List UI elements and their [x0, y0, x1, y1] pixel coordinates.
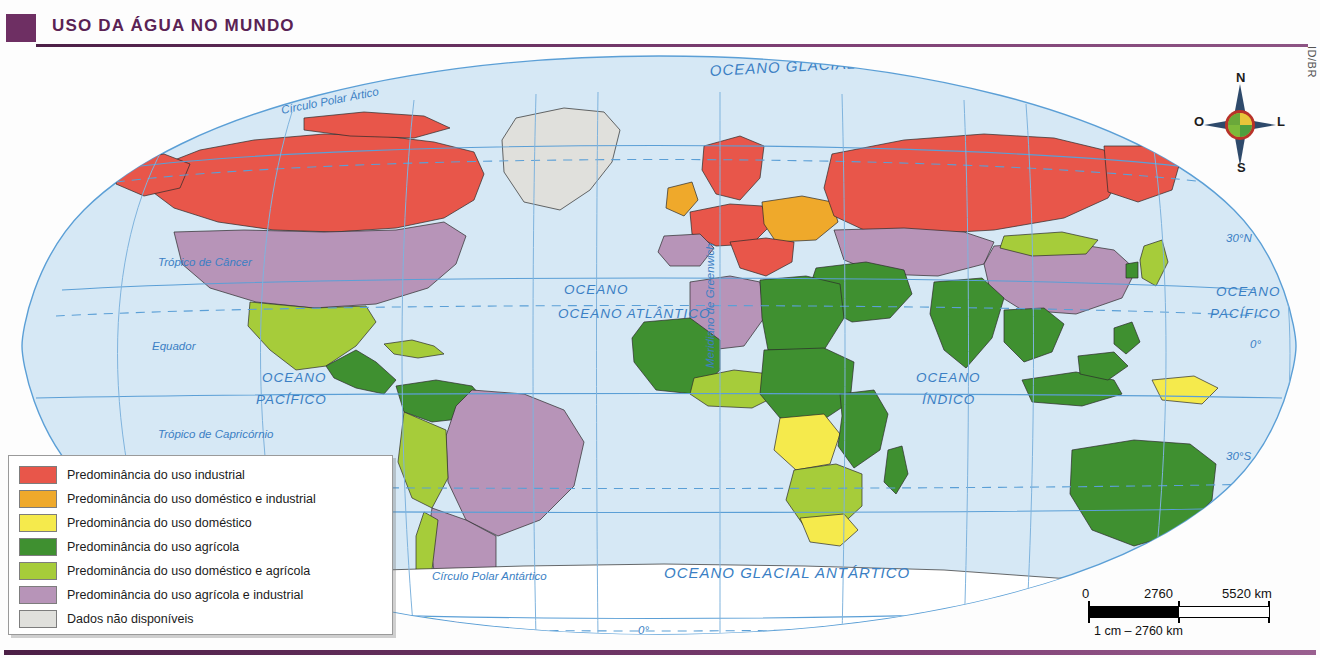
page-title: USO DA ÁGUA NO MUNDO	[52, 16, 295, 36]
label-lat-0: 0°	[1250, 338, 1261, 350]
label-lat-30N: 30°N	[1226, 232, 1252, 244]
legend-swatch	[19, 562, 57, 580]
legend-swatch	[19, 490, 57, 508]
scale-caption: 1 cm – 2760 km	[1094, 624, 1183, 638]
scale-bar-graphic	[1088, 606, 1270, 618]
scale-label-zero: 0	[1082, 586, 1089, 601]
legend-item: Predominância do uso agrícola e industri…	[19, 583, 392, 607]
legend-item: Predominância do uso doméstico e industr…	[19, 487, 392, 511]
scale-label-mid: 2760	[1144, 586, 1173, 601]
legend-swatch	[19, 538, 57, 556]
label-tropic-cancer: Trópico de Câncer	[158, 256, 253, 268]
label-pacific-west-line2: PACÍFICO	[256, 392, 327, 407]
compass-rose: N S O L	[1192, 70, 1288, 180]
legend-list: Predominância do uso industrialPredominâ…	[9, 456, 392, 631]
label-antarctic-circle: Círculo Polar Antártico	[432, 570, 547, 582]
scale-label-max: 5520 km	[1222, 586, 1272, 601]
label-indian-line1: OCEANO	[916, 370, 981, 385]
legend-item: Predominância do uso agrícola	[19, 535, 392, 559]
label-pacific-east-line2: PACÍFICO	[1210, 306, 1281, 321]
legend-label: Predominância do uso agrícola e industri…	[67, 588, 303, 602]
scale-numbers: 0 2760 5520 km	[1082, 586, 1312, 602]
legend-label: Predominância do uso doméstico	[67, 516, 252, 530]
legend-item: Predominância do uso industrial	[19, 463, 392, 487]
legend-label: Predominância do uso agrícola	[67, 540, 239, 554]
label-indian-line2: ÍNDICO	[922, 392, 975, 407]
legend-swatch	[19, 586, 57, 604]
label-atlantic-line2: OCEANO ATLÂNTICO	[558, 306, 711, 321]
scale-segment-filled	[1089, 607, 1179, 617]
country-australia	[1070, 440, 1216, 546]
scale-segment-empty	[1179, 607, 1269, 617]
legend-label: Predominância do uso doméstico e agrícol…	[67, 564, 310, 578]
label-lat-60S: 60°S	[1172, 552, 1197, 564]
legend-item: Dados não disponíveis	[19, 607, 392, 631]
legend-swatch	[19, 610, 57, 628]
label-lon-60O: 60°O	[408, 622, 434, 634]
legend-swatch	[19, 514, 57, 532]
label-atlantic-line1: OCEANO	[564, 282, 629, 297]
legend-swatch	[19, 466, 57, 484]
label-lon-60L: 60°L	[860, 622, 884, 634]
legend-label: Predominância do uso doméstico e industr…	[67, 492, 316, 506]
scale-bar: 0 2760 5520 km 1 cm – 2760 km	[1082, 586, 1312, 644]
label-pacific-west-line1: OCEANO	[262, 370, 327, 385]
page-header: USO DA ÁGUA NO MUNDO	[0, 14, 1320, 48]
label-lat-30S: 30°S	[1226, 450, 1251, 462]
country-korea	[1126, 262, 1138, 278]
header-marker-square	[6, 14, 36, 42]
legend-item: Predominância do uso doméstico e agrícol…	[19, 559, 392, 583]
label-equator: Equador	[152, 340, 197, 352]
country-new-zealand	[1228, 540, 1260, 582]
legend-item: Predominância do uso doméstico	[19, 511, 392, 535]
label-pacific-east-line1: OCEANO	[1216, 284, 1281, 299]
label-antarctic-ocean: OCEANO GLACIAL ANTÁRTICO	[664, 564, 910, 581]
map-legend: Predominância do uso industrialPredominâ…	[8, 455, 393, 635]
legend-label: Predominância do uso industrial	[67, 468, 245, 482]
legend-label: Dados não disponíveis	[67, 612, 193, 626]
label-lat-60N: 60°N	[1104, 118, 1130, 130]
header-divider	[36, 44, 1308, 47]
label-tropic-capricorn: Trópico de Capricórnio	[158, 428, 274, 440]
footer-divider	[4, 650, 1316, 655]
label-greenwich: Meridiano de Greenwich	[704, 243, 716, 368]
map-page: USO DA ÁGUA NO MUNDO ID/BR	[0, 0, 1320, 658]
